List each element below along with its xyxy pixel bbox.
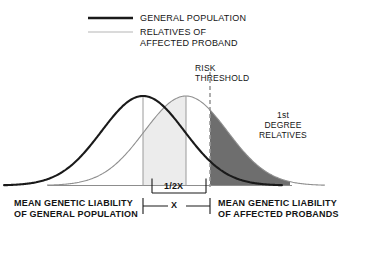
figure-root: GENERAL POPULATION RELATIVES OF AFFECTED… [0, 0, 368, 254]
legend-label-relatives: RELATIVES OF AFFECTED PROBAND [140, 27, 238, 49]
legend-label-general-population: GENERAL POPULATION [140, 13, 246, 24]
first-degree-relatives-label: 1st DEGREE RELATIVES [248, 110, 318, 140]
risk-threshold-label: RISK THRESHOLD [195, 63, 249, 83]
mean-affected-probands-axis-label: MEAN GENETIC LIABILITY OF AFFECTED PROBA… [218, 198, 339, 220]
half-x-label: 1/2X [164, 181, 183, 191]
mean-general-population-axis-label: MEAN GENETIC LIABILITY OF GENERAL POPULA… [14, 198, 138, 220]
x-label: X [171, 200, 177, 210]
